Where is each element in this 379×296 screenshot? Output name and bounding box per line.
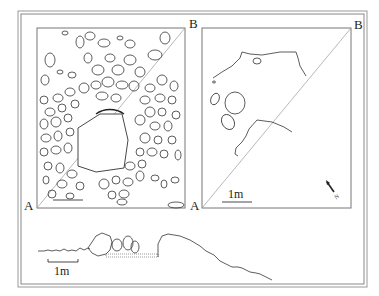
north-arrow-icon: N bbox=[326, 180, 341, 200]
feature-outline-top bbox=[213, 52, 306, 78]
scale-label-right: 1m bbox=[228, 187, 244, 201]
slab-edge bbox=[96, 110, 124, 115]
boulder-3 bbox=[123, 236, 133, 250]
plan-left: A B bbox=[24, 16, 198, 213]
stone-1 bbox=[209, 92, 221, 106]
small-stone bbox=[253, 58, 261, 64]
section-line-right bbox=[202, 28, 351, 208]
label-b-left: B bbox=[189, 16, 198, 31]
label-a-left: A bbox=[24, 198, 34, 213]
ground-line-left bbox=[38, 248, 90, 251]
features bbox=[209, 52, 306, 156]
label-b-right: B bbox=[354, 17, 363, 32]
svg-text:N: N bbox=[333, 193, 341, 201]
section-profile bbox=[38, 233, 272, 280]
ground-line-right bbox=[158, 234, 272, 280]
feature-outline-mid bbox=[249, 120, 292, 132]
boulder-2 bbox=[112, 239, 122, 251]
stone-3 bbox=[219, 112, 237, 132]
stone-2 bbox=[225, 92, 245, 114]
boulder-1 bbox=[88, 233, 112, 256]
label-a-right: A bbox=[190, 198, 200, 213]
central-slab bbox=[78, 114, 128, 172]
feature-outline-low bbox=[235, 129, 249, 156]
plan-right: 1m A B N bbox=[190, 17, 363, 213]
paved-layer bbox=[106, 254, 158, 257]
figure-canvas: A B 1m A B N bbox=[0, 0, 379, 296]
scale-label-section: 1m bbox=[54, 264, 70, 278]
outer-frame bbox=[18, 11, 367, 287]
